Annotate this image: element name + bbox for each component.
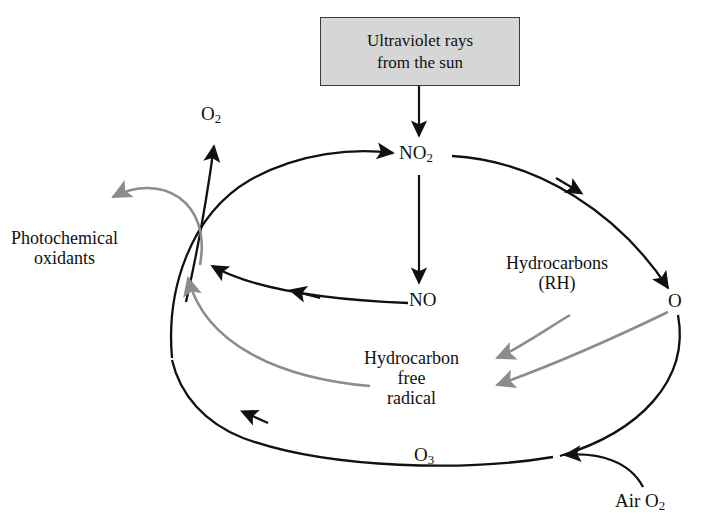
uv-source-box: Ultraviolet rays from the sun [320, 17, 520, 86]
node-photochemical-oxidants: Photochemical oxidants [11, 228, 118, 268]
node-o3-sub: 3 [428, 452, 434, 467]
node-oxidants-line1: Photochemical [11, 228, 118, 248]
edge-air-o2-to-o3 [565, 454, 643, 487]
node-no2-text: NO [399, 142, 426, 163]
edge-o3-to-junction-midarrow [248, 414, 268, 423]
node-hydrocarbon-free-radical: Hydrocarbon free radical [364, 348, 459, 408]
node-o3: O3 [414, 444, 434, 467]
edge-hydrocarbons-to-radical [497, 315, 570, 358]
edge-o-to-radical [497, 312, 668, 385]
node-oxidants-line2: oxidants [11, 248, 118, 268]
node-o-text: O [668, 290, 682, 311]
node-o2-released-text: O [201, 103, 215, 124]
edge-junction-to-o2 [186, 146, 214, 302]
node-hydrocarbons-line2: (RH) [506, 273, 608, 293]
node-air-o2: Air O2 [615, 490, 665, 513]
photochemical-smog-diagram: Ultraviolet rays from the sun NO2 NO O O… [0, 0, 701, 525]
node-no2: NO2 [399, 142, 433, 165]
edge-no-to-junction [212, 266, 408, 303]
node-radical-line3: radical [364, 388, 459, 408]
node-hydrocarbons-line1: Hydrocarbons [506, 253, 608, 273]
node-o3-text: O [414, 444, 428, 465]
uv-source-line1: Ultraviolet rays [367, 30, 473, 51]
edge-o-to-o3 [560, 315, 680, 456]
node-radical-line2: free [364, 368, 459, 388]
node-air-o2-sub: 2 [659, 498, 665, 513]
edge-radical-to-junction [188, 278, 370, 386]
node-o2-released-sub: 2 [215, 111, 221, 126]
node-no2-sub: 2 [426, 150, 432, 165]
node-o: O [668, 290, 682, 311]
node-no-text: NO [409, 289, 436, 310]
uv-source-line2: from the sun [377, 52, 463, 73]
node-o2-released: O2 [201, 103, 221, 126]
edge-o3-to-junction [172, 360, 553, 466]
node-no: NO [409, 289, 436, 310]
node-radical-line1: Hydrocarbon [364, 348, 459, 368]
node-air-o2-text: Air O [615, 490, 659, 511]
edge-junction-to-no2 [171, 151, 393, 358]
node-hydrocarbons: Hydrocarbons (RH) [506, 253, 608, 293]
